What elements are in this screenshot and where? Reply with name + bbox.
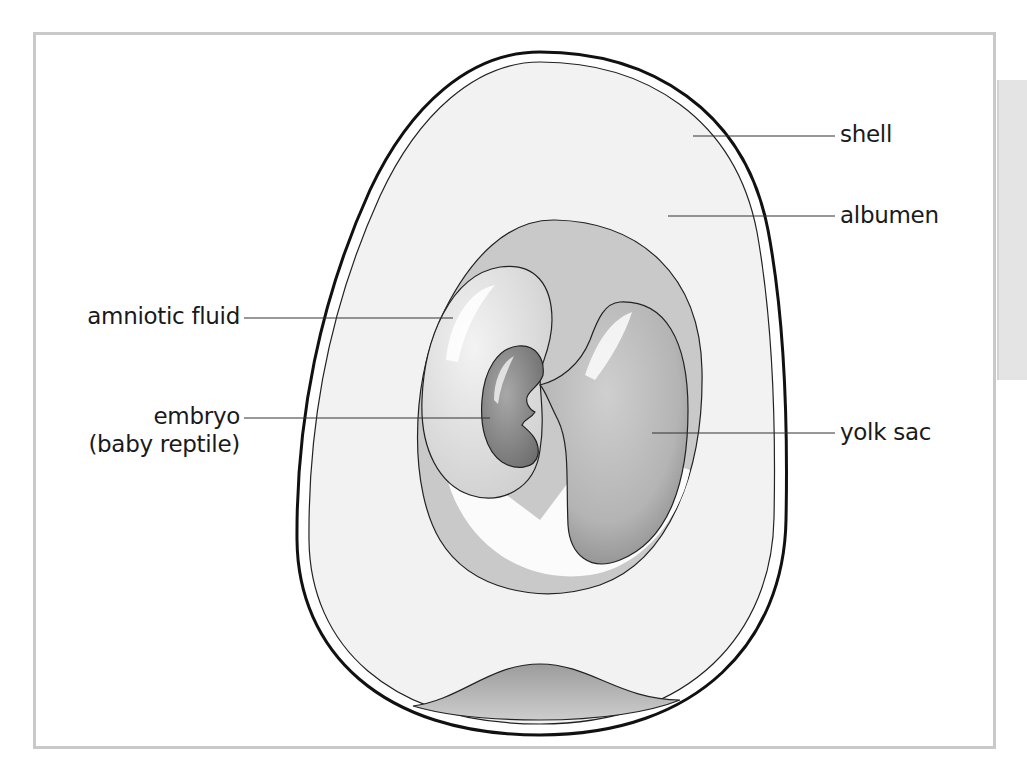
label-albumen: albumen bbox=[840, 201, 939, 229]
label-embryo: embryo bbox=[58, 402, 240, 430]
label-embryo-subtitle: (baby reptile) bbox=[58, 430, 240, 458]
label-shell: shell bbox=[840, 120, 892, 148]
label-amniotic-fluid: amniotic fluid bbox=[58, 302, 240, 330]
label-yolk-sac: yolk sac bbox=[840, 418, 931, 446]
